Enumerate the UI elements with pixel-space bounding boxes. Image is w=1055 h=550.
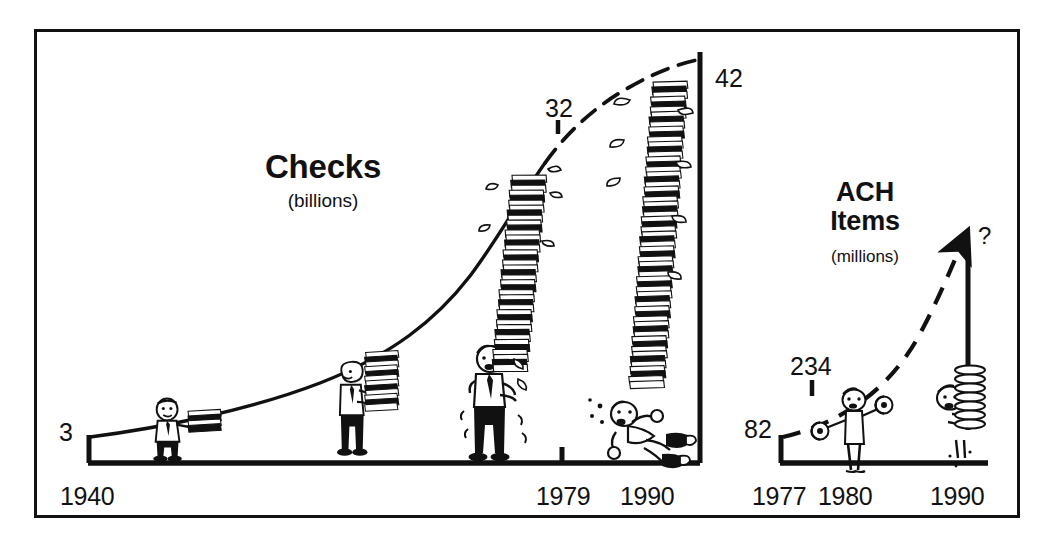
checks-xtick-label-1979: 1979: [536, 482, 590, 511]
checks-panel-subtitle: (billions): [228, 190, 418, 212]
checks-mid-value-label: 32: [545, 94, 573, 123]
ach-mid-value-label: 234: [790, 352, 832, 381]
ach-xtick-label-1980: 1980: [818, 482, 872, 511]
ach-xtick-label-1977: 1977: [752, 482, 806, 511]
checks-xtick-label-1990: 1990: [620, 482, 674, 511]
ach-panel-title: ACH Items: [790, 178, 940, 235]
checks-start-value-label: 3: [59, 418, 73, 447]
figure-border: [34, 29, 1020, 518]
ach-start-value-label: 82: [744, 415, 772, 444]
chart-figure: Checks (billions) ACH Items (millions) 3…: [0, 0, 1055, 550]
ach-xtick-label-1990: 1990: [930, 482, 984, 511]
ach-end-value-label: ?: [978, 222, 991, 250]
checks-end-value-label: 42: [715, 64, 743, 93]
checks-panel-title: Checks: [228, 150, 418, 184]
ach-panel-subtitle: (millions): [790, 247, 940, 267]
checks-xtick-label-1940: 1940: [60, 482, 114, 511]
